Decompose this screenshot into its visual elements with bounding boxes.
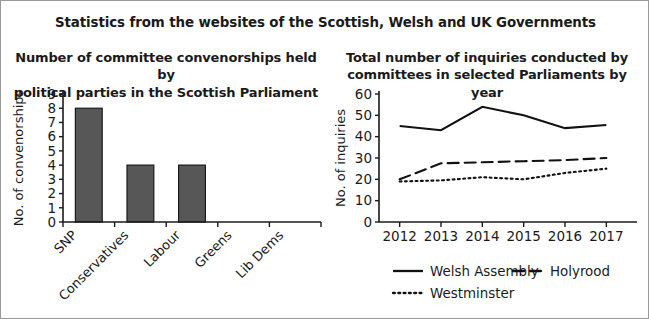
bar-chart-y-tick-label: 9 bbox=[47, 86, 56, 102]
bar-chart-convenorships: 0123456789 No. of convenorships SNPConse… bbox=[3, 85, 329, 313]
bar-chart-y-axis-title: No. of convenorships bbox=[11, 89, 26, 226]
line-chart-year-labels: 201220132014201520162017 bbox=[382, 228, 623, 244]
bar-chart-y-tick-label: 8 bbox=[47, 100, 56, 116]
line-chart-x-axis bbox=[379, 222, 637, 227]
line-chart-year-label: 2014 bbox=[465, 228, 499, 244]
line-chart-y-tick-label: 60 bbox=[355, 86, 372, 102]
bar-chart-bars bbox=[75, 108, 205, 222]
line-chart-y-tick-label: 50 bbox=[355, 107, 372, 123]
line-chart-legend: Welsh AssemblyHolyroodWestminster bbox=[393, 264, 610, 301]
legend-label-westminster: Westminster bbox=[430, 286, 515, 301]
line-chart-year-label: 2017 bbox=[589, 228, 623, 244]
bar bbox=[127, 165, 154, 222]
line-chart-y-tick-label: 30 bbox=[355, 150, 372, 166]
line-chart-y-tick-label: 0 bbox=[363, 214, 372, 230]
line-chart-y-axis-title: No. of inquiries bbox=[333, 109, 348, 207]
bar-chart-category-labels: SNPConservativesLabourGreensLib Dems bbox=[51, 227, 286, 303]
bar-chart-y-tick-label: 5 bbox=[47, 143, 56, 159]
left-chart-title-line1: Number of committee convenorships held b… bbox=[9, 49, 323, 84]
bar-chart-y-axis: 0123456789 bbox=[47, 86, 63, 230]
bar-chart-y-tick-label: 3 bbox=[47, 171, 56, 187]
bar-chart-y-tick-label: 2 bbox=[47, 185, 56, 201]
line-chart-year-label: 2013 bbox=[424, 228, 458, 244]
line-chart-series-group bbox=[400, 107, 607, 182]
line-chart-inquiries: 0102030405060 No. of inquiries 201220132… bbox=[331, 85, 647, 313]
bar-chart-category-label: Greens bbox=[191, 227, 234, 270]
bar-chart-category-label: Lib Dems bbox=[233, 227, 287, 281]
bar-chart-category-label: SNP bbox=[51, 227, 80, 256]
series-line-welsh-assembly bbox=[400, 107, 607, 130]
legend-label-holyrood: Holyrood bbox=[550, 264, 610, 279]
line-chart-year-label: 2012 bbox=[382, 228, 416, 244]
bar-chart-y-tick-label: 7 bbox=[47, 114, 56, 130]
bar-chart-y-axis-label: No. of convenorships bbox=[11, 89, 26, 226]
figure-main-title: Statistics from the websites of the Scot… bbox=[1, 15, 649, 30]
bar bbox=[179, 165, 206, 222]
line-chart-year-label: 2016 bbox=[548, 228, 582, 244]
bar-chart-y-tick-label: 6 bbox=[47, 128, 56, 144]
line-chart-y-axis-label: No. of inquiries bbox=[333, 109, 348, 207]
line-chart-y-tick-label: 40 bbox=[355, 128, 372, 144]
bar bbox=[75, 108, 102, 222]
line-chart-y-tick-label: 20 bbox=[355, 171, 372, 187]
bar-chart-y-tick-label: 1 bbox=[47, 200, 56, 216]
series-line-holyrood bbox=[400, 158, 607, 179]
bar-chart-y-tick-label: 4 bbox=[47, 157, 56, 173]
series-line-westminster bbox=[400, 169, 607, 182]
statistics-figure: Statistics from the websites of the Scot… bbox=[0, 0, 649, 319]
bar-chart-category-label: Labour bbox=[141, 227, 184, 270]
line-chart-y-axis: 0102030405060 bbox=[355, 86, 379, 230]
bar-chart-x-axis bbox=[63, 222, 321, 227]
bar-chart-y-tick-label: 0 bbox=[47, 214, 56, 230]
right-chart-title-line1: Total number of inquiries conducted by bbox=[331, 49, 643, 66]
line-chart-y-tick-label: 10 bbox=[355, 192, 372, 208]
line-chart-year-label: 2015 bbox=[506, 228, 540, 244]
